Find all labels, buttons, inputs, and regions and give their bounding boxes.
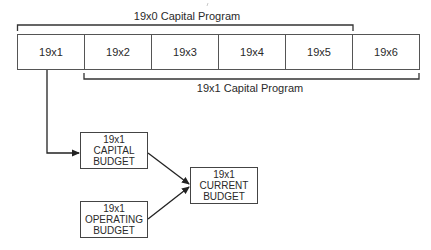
capital-budget-title: CAPITAL [94, 145, 135, 156]
year-cell: 19x5 [286, 35, 353, 69]
year-cell: 19x6 [353, 35, 419, 69]
year-timeline: 19x1 19x2 19x3 19x4 19x5 19x6 [17, 34, 420, 70]
operating-budget-year: 19x1 [103, 203, 125, 214]
capital-budget-box: 19x1 CAPITAL BUDGET [80, 132, 148, 169]
top-bracket [18, 25, 354, 31]
arrow-19x1-to-capital [47, 70, 79, 153]
arrow-operating-to-current [148, 187, 189, 219]
top-bracket-label: 19x0 Capital Program [92, 10, 282, 22]
bottom-bracket-label: 19x1 Capital Program [155, 82, 345, 94]
operating-budget-title: OPERATING [85, 214, 143, 225]
capital-budget-year: 19x1 [103, 134, 125, 145]
operating-budget-subtitle: BUDGET [93, 225, 135, 236]
current-budget-box: 19x1 CURRENT BUDGET [190, 167, 258, 204]
year-cell: 19x2 [85, 35, 152, 69]
capital-budget-subtitle: BUDGET [93, 156, 135, 167]
year-cell: 19x4 [219, 35, 286, 69]
bottom-bracket [84, 73, 419, 79]
current-budget-year: 19x1 [213, 169, 235, 180]
year-cell: 19x1 [18, 35, 85, 69]
year-cell: 19x3 [152, 35, 219, 69]
arrow-capital-to-current [148, 153, 189, 184]
current-budget-title: CURRENT [200, 180, 249, 191]
operating-budget-box: 19x1 OPERATING BUDGET [80, 201, 148, 238]
current-budget-subtitle: BUDGET [203, 191, 245, 202]
